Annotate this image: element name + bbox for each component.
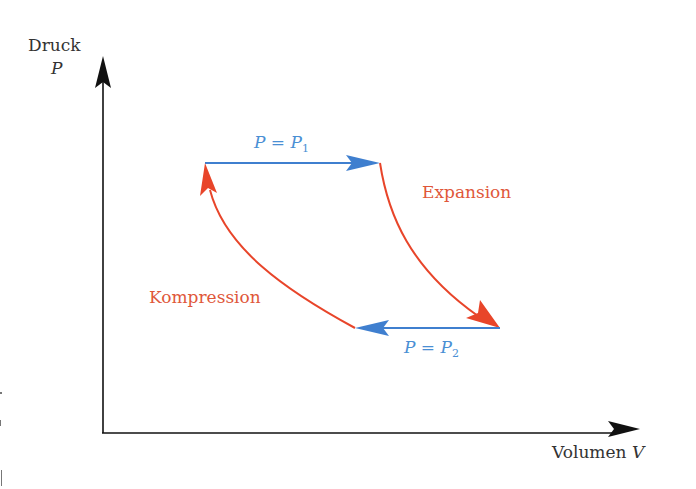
arrow-down-right-icon — [466, 300, 500, 328]
arrow-up-icon — [200, 163, 217, 196]
diagram-canvas — [0, 0, 696, 489]
scan-artifact — [1, 470, 2, 486]
isobar-bottom-label: P = P2 — [404, 337, 459, 360]
pv-diagram: Druck P Volumen V P = P1 P = P2 Expansio… — [0, 0, 696, 489]
x-axis-symbol: V — [632, 442, 644, 462]
y-axis-label-text: Druck — [28, 35, 81, 55]
isobar-top-label: P = P1 — [254, 132, 309, 155]
compression-label: Kompression — [149, 287, 261, 307]
scan-artifact — [0, 420, 1, 426]
isobar-top — [205, 155, 380, 171]
x-axis-label: Volumen V — [552, 442, 644, 462]
isobar-bottom — [355, 320, 500, 336]
expansion-label: Expansion — [422, 182, 511, 202]
axes — [95, 56, 640, 437]
x-axis-arrow-icon — [608, 421, 640, 437]
scan-artifact — [0, 392, 2, 394]
y-axis-symbol: P — [51, 58, 62, 78]
y-axis-label: Druck — [28, 35, 81, 55]
x-axis-label-text: Volumen — [552, 442, 626, 462]
